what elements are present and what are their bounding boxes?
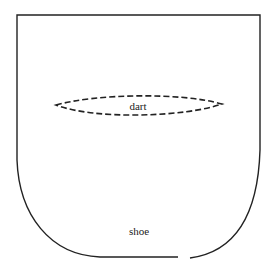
pattern-outline-right-curve [190,150,260,258]
pattern-svg: dart shoe [0,0,275,275]
shoe-label: shoe [129,225,149,237]
dart-label: dart [129,100,146,112]
pattern-outline-left-curve [17,130,178,257]
pattern-diagram: dart shoe [0,0,275,275]
pattern-outline-left [17,15,260,150]
